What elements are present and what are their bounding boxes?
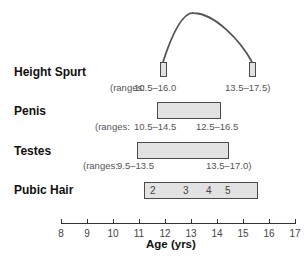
row-label-penis: Penis xyxy=(14,104,46,118)
penis-ranges-prefix: (ranges: xyxy=(95,121,130,132)
penis-bar xyxy=(157,102,221,119)
tick-label: 10 xyxy=(103,228,123,239)
tick xyxy=(165,219,166,224)
tick xyxy=(243,219,244,224)
x-axis-line xyxy=(61,223,296,224)
tick xyxy=(113,219,114,224)
tick-label: 15 xyxy=(233,228,253,239)
tick xyxy=(191,219,192,224)
row-label-pubic-hair: Pubic Hair xyxy=(14,183,73,197)
stage-3: 3 xyxy=(183,185,189,196)
tick-label: 14 xyxy=(207,228,227,239)
testes-start-range: 9.5–13.5 xyxy=(117,160,154,171)
tick xyxy=(87,219,88,224)
tick-label: 9 xyxy=(77,228,97,239)
testes-end-range: 13.5–17.0) xyxy=(206,160,251,171)
penis-start-range: 10.5–14.5 xyxy=(134,121,176,132)
pubic-hair-bar: 2 3 4 5 xyxy=(144,182,258,199)
tick xyxy=(295,219,296,224)
tick xyxy=(269,219,270,224)
height-spurt-end-marker xyxy=(249,62,256,77)
testes-bar xyxy=(137,142,229,159)
tick xyxy=(61,219,62,224)
stage-4: 4 xyxy=(206,185,212,196)
height-spurt-end-range: 13.5–17.5) xyxy=(225,82,270,93)
tick xyxy=(217,219,218,224)
penis-end-range: 12.5–16.5 xyxy=(196,121,238,132)
stage-2: 2 xyxy=(150,185,156,196)
x-axis-label: Age (yrs) xyxy=(146,238,196,250)
height-spurt-start-marker xyxy=(160,62,167,77)
testes-ranges-prefix: (ranges: xyxy=(83,160,118,171)
tick-label: 16 xyxy=(259,228,279,239)
height-spurt-start-range: 10.5–16.0 xyxy=(134,82,176,93)
row-label-testes: Testes xyxy=(14,144,51,158)
tick-label: 17 xyxy=(285,228,305,239)
tick-label: 8 xyxy=(51,228,71,239)
tick xyxy=(139,219,140,224)
stage-5: 5 xyxy=(225,185,231,196)
